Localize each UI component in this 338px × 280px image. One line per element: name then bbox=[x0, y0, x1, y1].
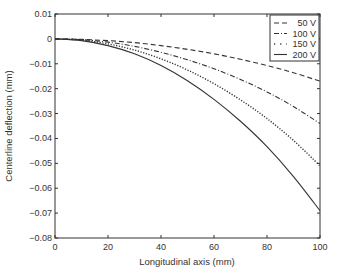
legend-entry-label: 150 V bbox=[292, 39, 316, 49]
y-tick-label: −0.04 bbox=[29, 133, 52, 143]
y-tick-label: −0.05 bbox=[29, 158, 52, 168]
y-tick-label: −0.08 bbox=[29, 233, 52, 243]
x-tick-label: 20 bbox=[103, 242, 113, 252]
y-tick-label: 0.01 bbox=[34, 9, 52, 19]
y-tick-label: −0.01 bbox=[29, 59, 52, 69]
plot-lines bbox=[55, 39, 320, 211]
y-tick-label: −0.06 bbox=[29, 183, 52, 193]
x-axis-label: Longitudinal axis (mm) bbox=[139, 256, 235, 267]
legend-entry-label: 50 V bbox=[297, 18, 316, 28]
y-axis-label: Centerline deflection (mm) bbox=[3, 70, 14, 181]
y-tick-label: −0.02 bbox=[29, 84, 52, 94]
x-tick-label: 80 bbox=[262, 242, 272, 252]
y-tick-label: −0.03 bbox=[29, 109, 52, 119]
x-tick-label: 0 bbox=[52, 242, 57, 252]
legend: 50 V100 V150 V200 V bbox=[270, 15, 319, 61]
y-tick-label: −0.07 bbox=[29, 208, 52, 218]
legend-entry-label: 100 V bbox=[292, 29, 316, 39]
y-tick-label: 0 bbox=[47, 34, 52, 44]
x-tick-label: 40 bbox=[156, 242, 166, 252]
legend-entry-label: 200 V bbox=[292, 50, 316, 60]
series-line-200v bbox=[55, 39, 320, 211]
x-tick-label: 100 bbox=[312, 242, 327, 252]
x-tick-label: 60 bbox=[209, 242, 219, 252]
deflection-line-chart: 0.010−0.01−0.02−0.03−0.04−0.05−0.06−0.07… bbox=[0, 0, 338, 280]
